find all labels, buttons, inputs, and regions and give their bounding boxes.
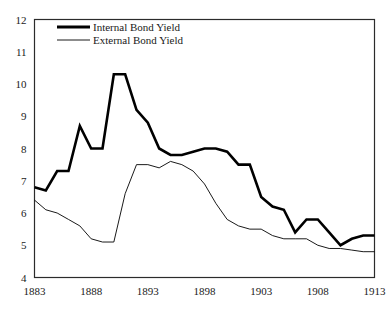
x-axis-tick-label: 1908 [307, 285, 330, 297]
y-axis-tick-label: 12 [16, 14, 27, 26]
y-axis-tick-label: 7 [21, 175, 27, 187]
y-axis-tick-label: 11 [16, 46, 27, 58]
chart-canvas: 4567891011121883188818931898190319081913… [0, 0, 391, 311]
x-axis-tick-label: 1893 [137, 285, 160, 297]
y-axis-tick-label: 4 [21, 272, 27, 284]
y-axis-tick-label: 5 [21, 239, 27, 251]
chart-background [0, 0, 391, 311]
x-axis-tick-label: 1883 [24, 285, 47, 297]
x-axis-tick-label: 1898 [194, 285, 217, 297]
x-axis-tick-label: 1888 [80, 285, 103, 297]
y-axis-tick-label: 8 [21, 143, 27, 155]
x-axis-tick-label: 1903 [250, 285, 273, 297]
y-axis-tick-label: 9 [21, 110, 27, 122]
y-axis-tick-label: 10 [16, 78, 28, 90]
x-axis-tick-label: 1913 [364, 285, 387, 297]
y-axis-tick-label: 6 [21, 207, 27, 219]
bond-yield-chart: 4567891011121883188818931898190319081913… [0, 0, 391, 311]
legend-item-label: External Bond Yield [93, 34, 184, 46]
legend-item-label: Internal Bond Yield [93, 21, 180, 33]
